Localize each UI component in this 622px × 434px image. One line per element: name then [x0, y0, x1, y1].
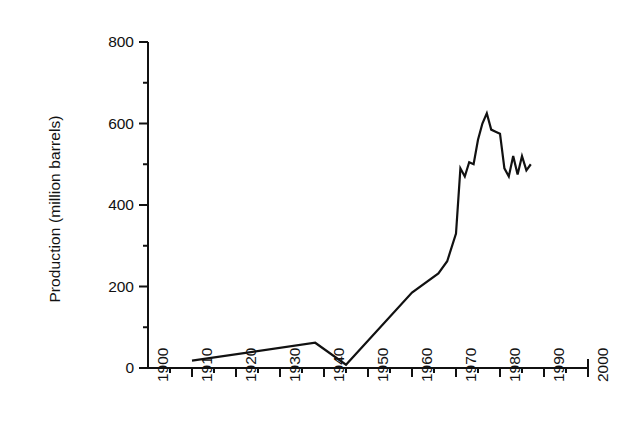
- y-axis-ticks: [139, 42, 148, 368]
- y-tick-label: 800: [108, 33, 134, 51]
- x-tick-label: 1930: [286, 348, 304, 382]
- x-tick-label: 1910: [198, 348, 216, 382]
- y-tick-label: 0: [125, 359, 134, 377]
- x-tick-label: 1960: [418, 348, 436, 382]
- x-tick-label: 1970: [462, 348, 480, 382]
- x-tick-label: 1900: [154, 348, 172, 382]
- x-tick-label: 1980: [506, 348, 524, 382]
- x-tick-label: 1920: [242, 348, 260, 382]
- data-series-line: [192, 113, 531, 364]
- x-tick-label: 1990: [550, 348, 568, 382]
- x-tick-label: 1950: [374, 348, 392, 382]
- y-tick-label: 600: [108, 115, 134, 133]
- chart-plot-area: [0, 0, 622, 434]
- y-tick-label: 400: [108, 196, 134, 214]
- x-tick-label: 1940: [330, 348, 348, 382]
- chart-figure: Production (million barrels) 02004006008…: [0, 0, 622, 434]
- x-tick-label: 2000: [594, 348, 612, 382]
- y-tick-label: 200: [108, 278, 134, 296]
- axis-lines: [148, 42, 588, 368]
